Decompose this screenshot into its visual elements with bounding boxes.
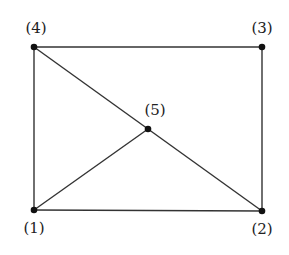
node-4 (31, 44, 38, 51)
node-label-5: (5) (144, 101, 165, 119)
node-label-2: (2) (251, 220, 272, 238)
node-label-4: (4) (25, 19, 46, 37)
graph-canvas (0, 0, 289, 255)
node-3 (259, 44, 266, 51)
edge-2-1 (34, 210, 262, 211)
node-label-1: (1) (23, 219, 44, 237)
graph-diagram: (1)(2)(3)(4)(5) (0, 0, 289, 255)
node-5 (145, 126, 152, 133)
node-2 (259, 208, 266, 215)
edge-1-5 (34, 129, 148, 210)
edge-4-5 (34, 47, 148, 129)
edge-5-2 (148, 129, 262, 211)
node-1 (31, 207, 38, 214)
node-label-3: (3) (251, 19, 272, 37)
